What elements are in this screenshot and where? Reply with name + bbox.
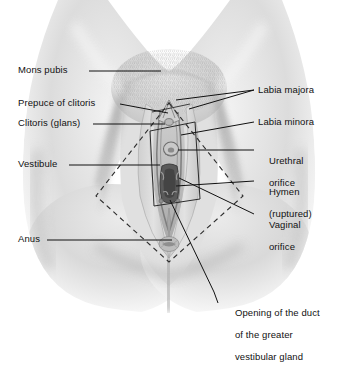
- gvg-line2: of the greater: [235, 329, 293, 340]
- label-mons-pubis: Mons pubis: [18, 64, 68, 75]
- gvg-line3: vestibular gland: [235, 351, 303, 362]
- label-vestibule: Vestibule: [18, 158, 57, 169]
- label-labia-minora: Labia minora: [258, 116, 314, 127]
- label-prepuce-of-clitoris: Prepuce of clitoris: [18, 97, 95, 108]
- label-urethral-orifice-line1: Urethral: [269, 155, 304, 166]
- label-labia-majora: Labia majora: [258, 84, 314, 95]
- gvg-line1: Opening of the duct: [235, 307, 320, 318]
- label-hymen-line1: Hymen: [269, 186, 300, 197]
- label-anus: Anus: [18, 233, 40, 244]
- urethral-orifice-structure: [164, 142, 179, 156]
- label-greater-vestibular-gland-duct: Opening of the duct of the greater vesti…: [224, 296, 320, 366]
- anus-structure: [159, 237, 179, 252]
- label-clitoris-glans: Clitoris (glans): [18, 117, 80, 128]
- label-vaginal-orifice-line1: Vaginal: [269, 219, 301, 230]
- vaginal-orifice-structure: [160, 164, 179, 203]
- label-vaginal-orifice: Vaginal orifice: [258, 208, 301, 263]
- label-vaginal-orifice-line2: orifice: [269, 241, 295, 252]
